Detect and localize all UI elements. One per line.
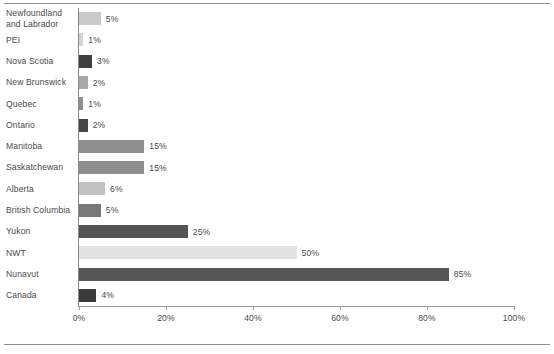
category-label: Nunavut xyxy=(6,268,74,280)
category-label: Nova Scotia xyxy=(6,55,74,67)
x-axis-tick-label: 80% xyxy=(418,313,436,323)
bar xyxy=(79,225,188,238)
bar xyxy=(79,161,144,174)
category-label: New Brunswick xyxy=(6,77,74,89)
bar-value-label: 50% xyxy=(302,248,320,258)
horizontal-bar-chart: Newfoundland and LabradorPEINova ScotiaN… xyxy=(0,8,554,338)
category-label: Newfoundland and Labrador xyxy=(6,8,74,30)
bar-value-label: 25% xyxy=(193,227,211,237)
bar-fill xyxy=(79,76,88,89)
bar-fill xyxy=(79,33,83,46)
bar xyxy=(79,140,144,153)
x-axis-line xyxy=(78,306,515,307)
bar-value-label: 2% xyxy=(93,120,106,130)
bar-fill xyxy=(79,12,101,25)
bar xyxy=(79,55,92,68)
category-label: British Columbia xyxy=(6,204,74,216)
category-label: Alberta xyxy=(6,183,74,195)
category-label: Saskatchewan xyxy=(6,162,74,174)
plot-area: 5%1%3%2%1%2%15%15%6%5%25%50%85%4%0%20%40… xyxy=(79,8,514,306)
bottom-divider-rule xyxy=(4,344,550,345)
bar xyxy=(79,204,101,217)
category-label: Yukon xyxy=(6,226,74,238)
bar-value-label: 5% xyxy=(106,205,119,215)
bar xyxy=(79,268,449,281)
bar xyxy=(79,33,83,46)
bar-value-label: 5% xyxy=(106,14,119,24)
bar-fill xyxy=(79,246,297,259)
bar xyxy=(79,119,88,132)
bar-fill xyxy=(79,119,88,132)
chart-figure: Newfoundland and LabradorPEINova ScotiaN… xyxy=(0,0,554,354)
x-axis-tick-label: 0% xyxy=(73,313,86,323)
x-axis-tick xyxy=(253,306,254,310)
bar-value-label: 1% xyxy=(88,35,101,45)
x-axis-tick-label: 60% xyxy=(331,313,349,323)
bar-fill xyxy=(79,204,101,217)
bar xyxy=(79,289,96,302)
x-axis-tick xyxy=(79,306,80,310)
category-label: Canada xyxy=(6,289,74,301)
bar-value-label: 1% xyxy=(88,99,101,109)
category-label: Quebec xyxy=(6,98,74,110)
bar-value-label: 4% xyxy=(101,290,114,300)
category-axis-labels: Newfoundland and LabradorPEINova ScotiaN… xyxy=(0,8,74,306)
bar-fill xyxy=(79,140,144,153)
bar-value-label: 15% xyxy=(149,163,167,173)
category-label: Manitoba xyxy=(6,140,74,152)
bar-fill xyxy=(79,289,96,302)
bar-fill xyxy=(79,55,92,68)
category-label: Ontario xyxy=(6,119,74,131)
top-divider-rule xyxy=(4,3,550,4)
x-axis-tick-label: 100% xyxy=(503,313,525,323)
bar xyxy=(79,76,88,89)
bar-value-label: 85% xyxy=(454,269,472,279)
bar xyxy=(79,12,101,25)
bar-value-label: 3% xyxy=(97,56,110,66)
bar-fill xyxy=(79,97,83,110)
bar-value-label: 2% xyxy=(93,78,106,88)
bar xyxy=(79,97,83,110)
category-label: PEI xyxy=(6,34,74,46)
category-label: NWT xyxy=(6,247,74,259)
bar-value-label: 6% xyxy=(110,184,123,194)
x-axis-tick xyxy=(340,306,341,310)
x-axis-tick-label: 20% xyxy=(157,313,175,323)
x-axis-tick xyxy=(427,306,428,310)
x-axis-tick xyxy=(166,306,167,310)
bar-fill xyxy=(79,161,144,174)
bar-fill xyxy=(79,182,105,195)
bar xyxy=(79,246,297,259)
bar-fill xyxy=(79,225,188,238)
bar-value-label: 15% xyxy=(149,141,167,151)
bar-fill xyxy=(79,268,449,281)
x-axis-tick-label: 40% xyxy=(244,313,262,323)
x-axis-tick xyxy=(514,306,515,310)
y-axis-line xyxy=(78,8,79,306)
bar xyxy=(79,182,105,195)
